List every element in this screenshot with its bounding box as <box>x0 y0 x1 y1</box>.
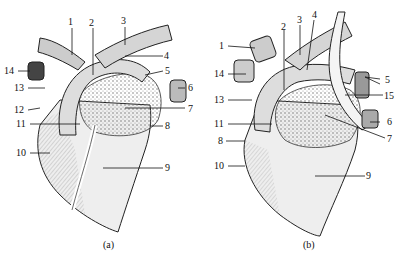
label-a-11: 11 <box>16 119 26 129</box>
label-a-8: 8 <box>165 121 170 131</box>
label-a-5: 5 <box>165 66 170 76</box>
label-b-15: 15 <box>384 91 394 101</box>
label-a-4: 4 <box>164 51 169 61</box>
label-b-13: 13 <box>214 95 224 105</box>
label-b-1: 1 <box>219 41 224 51</box>
label-a-7: 7 <box>188 104 193 114</box>
label-b-7: 7 <box>387 134 392 144</box>
label-b-3: 3 <box>297 15 302 25</box>
label-b-10: 10 <box>214 161 224 171</box>
label-a-1: 1 <box>68 17 73 27</box>
label-a-2: 2 <box>89 18 94 28</box>
label-b-2: 2 <box>281 22 286 32</box>
label-a-14: 14 <box>4 66 14 76</box>
label-a-13: 13 <box>14 83 24 93</box>
label-b-9: 9 <box>366 171 371 181</box>
label-b-4: 4 <box>312 10 317 20</box>
label-b-14: 14 <box>214 69 224 79</box>
label-a-12: 12 <box>14 105 24 115</box>
label-a-10: 10 <box>16 148 26 158</box>
label-b-8: 8 <box>218 136 223 146</box>
label-b-5: 5 <box>385 75 390 85</box>
caption-a: (a) <box>103 240 114 250</box>
heart-anatomy-figure: 1 2 3 4 5 6 7 8 9 10 11 12 13 14 (a) 1 2… <box>0 0 399 264</box>
label-b-11: 11 <box>214 119 224 129</box>
heart-illustrations <box>0 0 399 264</box>
label-a-9: 9 <box>165 163 170 173</box>
label-a-6: 6 <box>188 83 193 93</box>
label-a-3: 3 <box>121 16 126 26</box>
label-b-6: 6 <box>387 117 392 127</box>
caption-b: (b) <box>303 240 315 250</box>
